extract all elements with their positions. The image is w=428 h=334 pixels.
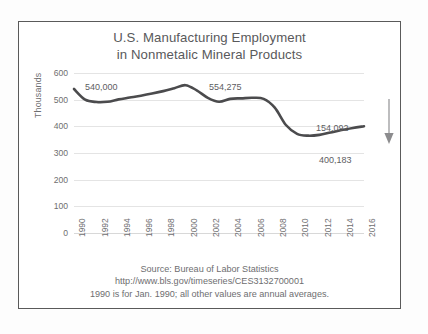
chart-title: U.S. Manufacturing Employment in Nonmeta… (19, 30, 400, 63)
y-axis-tick-label: 600 (54, 68, 68, 78)
y-axis-tick-label: 400 (54, 121, 68, 131)
footer-source: Source: Bureau of Labor Statistics (19, 263, 400, 275)
plot-area: 0100200300400500600 19901992199419961998… (74, 73, 364, 233)
chart-title-line-1: U.S. Manufacturing Employment (19, 30, 400, 47)
annotation-peak-value: 554,275 (209, 82, 242, 92)
y-axis-tick-label: 300 (54, 148, 68, 158)
series-line (74, 73, 364, 233)
y-axis-tick-label: 200 (54, 175, 68, 185)
footer-note: 1990 is for Jan. 1990; all other values … (19, 288, 400, 300)
down-arrow-icon (382, 99, 396, 147)
chart-footer: Source: Bureau of Labor Statistics http:… (19, 263, 400, 300)
footer-url: http://www.bls.gov/timeseries/CES3132700… (19, 275, 400, 287)
y-axis-tick-label: 0 (63, 228, 68, 238)
chart-page: U.S. Manufacturing Employment in Nonmeta… (0, 0, 428, 334)
y-axis-title: Thousands (33, 73, 43, 118)
chart-title-line-2: in Nonmetalic Mineral Products (19, 47, 400, 64)
annotation-end-value: 400,183 (319, 155, 352, 165)
chart-frame: U.S. Manufacturing Employment in Nonmeta… (18, 21, 401, 309)
annotation-start-value: 540,000 (85, 82, 118, 92)
x-axis-tick-label: 2016 (367, 218, 377, 237)
annotation-decline-value: 154,092 (316, 123, 349, 133)
y-axis-tick-label: 100 (54, 201, 68, 211)
y-axis-tick-label: 500 (54, 95, 68, 105)
